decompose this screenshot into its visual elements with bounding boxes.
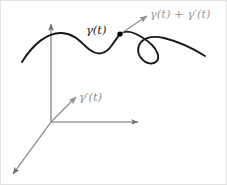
figure-border (1, 1, 227, 185)
gamma-t-label: γ(t) (86, 25, 106, 37)
depth-axis (13, 122, 51, 174)
curve-diagram-svg (0, 0, 227, 185)
gamma-point-marker (117, 31, 122, 36)
figure-container: γ(t) γ(t) + γ′(t) γ′(t) (0, 0, 227, 185)
gamma-prime-t-label: γ′(t) (79, 92, 102, 104)
tangent-vector-at-point (120, 16, 147, 34)
tangent-vector-at-origin (51, 97, 76, 122)
gamma-plus-gamma-prime-label: γ(t) + γ′(t) (150, 9, 211, 21)
axis-group (13, 24, 138, 174)
gamma-curve (22, 32, 205, 64)
